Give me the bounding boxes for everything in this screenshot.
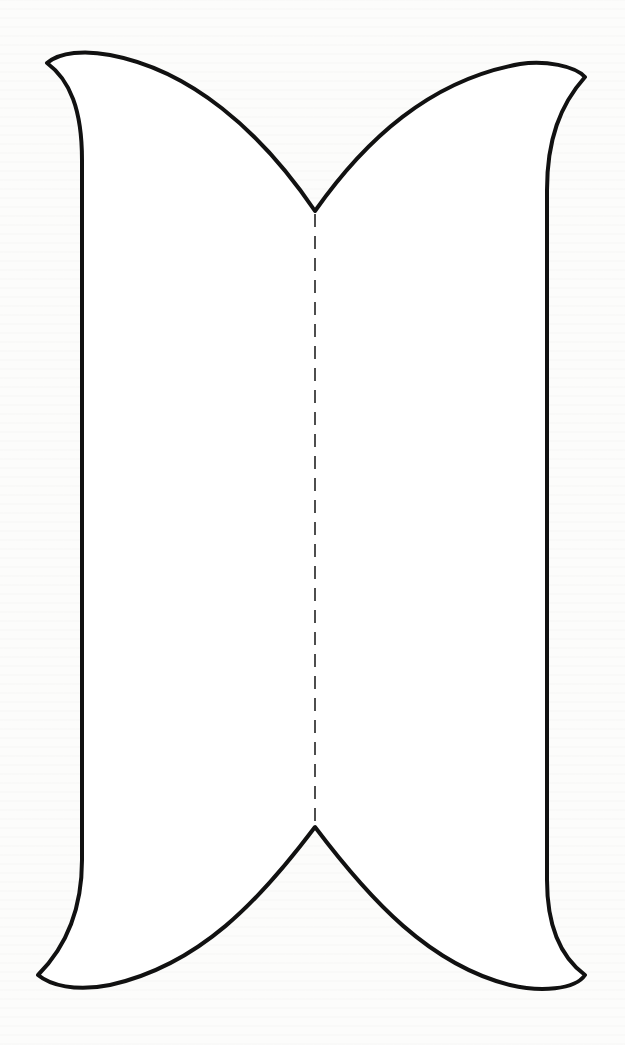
fold-template-diagram [0,0,625,1045]
template-outline [38,52,585,988]
diagram-page [0,0,625,1045]
